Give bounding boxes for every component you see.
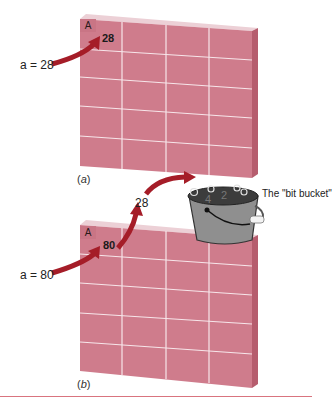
- cell-value-b: 80: [103, 239, 115, 251]
- cell-value-a: 28: [102, 32, 114, 44]
- cell-tag-b: A: [80, 226, 96, 239]
- bit-bucket-label: The "bit bucket": [262, 188, 332, 199]
- bucket-digit-2: 2: [221, 189, 227, 201]
- assignment-label-a: a = 28: [20, 58, 54, 72]
- caption-b: (b): [77, 378, 90, 390]
- bucket-digit-4: 4: [205, 193, 211, 205]
- caption-a: (a): [77, 173, 90, 185]
- discard-arrow-2: [146, 177, 185, 194]
- memory-grid-b-side: [252, 235, 258, 388]
- discarded-value-label: 28: [135, 196, 148, 210]
- assignment-label-b: a = 80: [20, 268, 54, 282]
- bottom-rule: [0, 396, 312, 397]
- memory-grid-a-side: [252, 28, 258, 178]
- cell-tag-a: A: [80, 19, 96, 32]
